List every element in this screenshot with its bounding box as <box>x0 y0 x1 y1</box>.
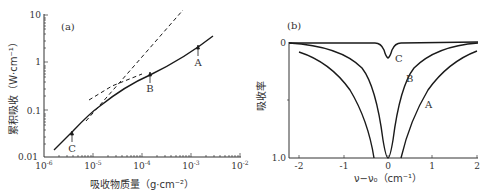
b-curve-a-right <box>401 51 477 158</box>
b-ytick-1.0: 1.0 <box>272 153 287 163</box>
b-ytick-0: 0 <box>280 38 286 48</box>
panel-b: 0 1.0 -2 -1 0 1 2 ν−ν₀（cm⁻¹） 吸收率 (b) C B… <box>255 20 480 184</box>
panel-a: 10 1 0.1 0.01 10-6 10-5 10-4 10-3 10-2 吸… <box>7 10 249 190</box>
b-x-axis-title: ν−ν₀（cm⁻¹） <box>354 173 422 184</box>
a-xtick-1e-6: 10-6 <box>35 159 52 171</box>
b-y-axis-title: 吸收率 <box>255 81 267 111</box>
a-xtick-1e-3: 10-3 <box>182 159 199 171</box>
a-label-b: B <box>146 83 153 94</box>
a-label-a: A <box>193 57 202 68</box>
b-label-c: C <box>395 53 403 64</box>
b-label-a: A <box>424 99 433 110</box>
a-arrowhead-b <box>149 72 152 76</box>
a-y-axis-title: 累积吸收（W·cm⁻¹） <box>7 37 19 135</box>
a-label-c: C <box>68 143 76 154</box>
a-ytick-1: 1 <box>35 57 41 67</box>
a-x-ticks <box>59 153 240 157</box>
a-y-ticks <box>44 15 48 144</box>
a-xtick-labels: 10-6 10-5 10-4 10-3 10-2 <box>35 159 248 171</box>
figure: 10 1 0.1 0.01 10-6 10-5 10-4 10-3 10-2 吸… <box>0 0 486 195</box>
a-xtick-1e-5: 10-5 <box>84 159 101 171</box>
b-xtick-neg2: -2 <box>295 161 304 171</box>
b-xtick-2: 2 <box>474 161 480 171</box>
b-panel-label: (b) <box>287 20 301 31</box>
b-xtick-0: 0 <box>385 161 391 171</box>
a-ytick-0.1: 0.1 <box>27 106 41 116</box>
a-ytick-10: 10 <box>30 10 42 20</box>
a-xtick-1e-2: 10-2 <box>231 159 248 171</box>
b-curve-c <box>289 42 478 58</box>
b-xtick-1: 1 <box>429 161 435 171</box>
b-label-b: B <box>406 73 413 84</box>
a-panel-label: (a) <box>61 21 75 32</box>
a-x-axis-title: 吸收物质量（g·cm⁻²） <box>90 178 194 190</box>
a-annotations <box>71 45 200 142</box>
b-xtick-neg1: -1 <box>340 161 349 171</box>
a-xtick-1e-4: 10-4 <box>133 159 150 171</box>
a-growth-curve <box>54 36 213 150</box>
